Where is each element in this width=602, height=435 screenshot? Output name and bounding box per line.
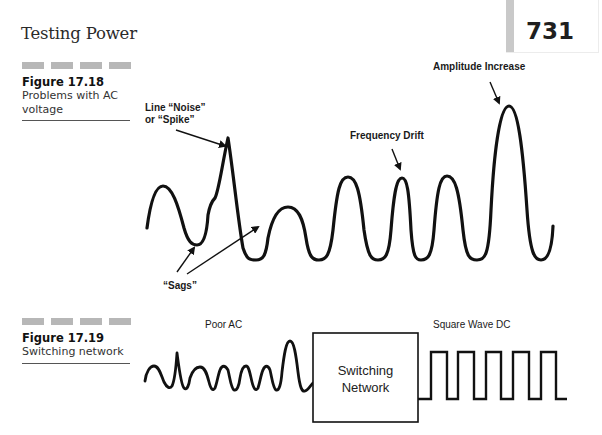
sags-annotation: “Sags” <box>163 280 197 292</box>
poor-ac-waveform <box>145 341 313 391</box>
sag-arrow-2 <box>187 227 258 274</box>
poor-ac-label: Poor AC <box>205 319 242 331</box>
noise-annotation-line1: Line “Noise” <box>145 102 206 114</box>
amplitude-arrow <box>490 82 499 103</box>
square-wave-dc-label: Square Wave DC <box>433 319 510 331</box>
switching-network-label: Switching Network <box>313 362 418 396</box>
frequency-drift-arrow <box>392 149 400 169</box>
amplitude-increase-annotation: Amplitude Increase <box>433 61 525 73</box>
switching-network-label-line1: Switching <box>313 362 418 379</box>
frequency-drift-annotation: Frequency Drift <box>350 130 424 142</box>
noise-arrow <box>176 130 225 146</box>
switching-network-label-line2: Network <box>313 379 418 396</box>
square-wave-dc <box>418 352 567 399</box>
sag-arrow-1 <box>177 248 194 272</box>
noise-annotation: Line “Noise” or “Spike” <box>145 102 206 126</box>
noise-annotation-line2: or “Spike” <box>145 114 206 126</box>
